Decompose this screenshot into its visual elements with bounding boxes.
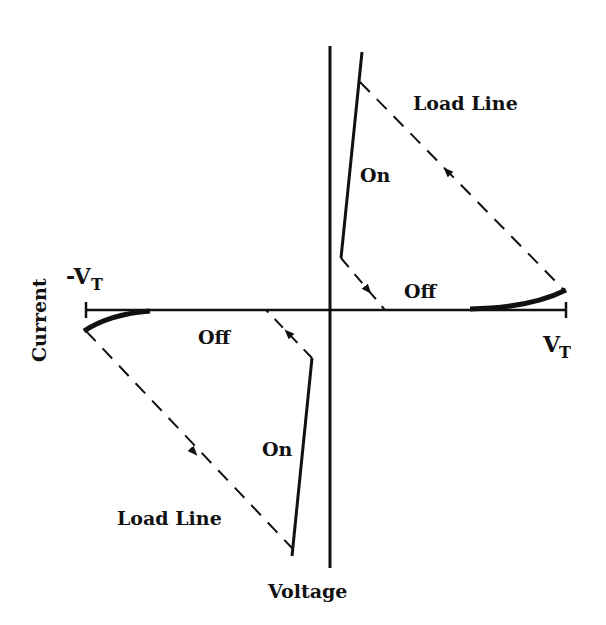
off-label-left: Off (198, 326, 232, 348)
iv-diagram: Load Line On Off Off On Load Line Voltag… (0, 0, 606, 625)
on-label-bottom: On (262, 438, 293, 460)
switch-off-transition-bottom (266, 310, 312, 358)
y-axis-title: Current (28, 278, 50, 362)
on-curve-top (341, 52, 362, 258)
on-label-top: On (360, 164, 391, 186)
vt-pos-label: V T (542, 331, 571, 362)
load-line-bottom-arrow (180, 437, 194, 452)
vt-pos-sub: T (559, 343, 571, 362)
vt-neg-sub: T (91, 275, 103, 294)
on-curve-bottom (292, 358, 312, 556)
x-axis-title: Voltage (267, 580, 347, 602)
vt-neg-label: -V T (66, 263, 103, 294)
load-line-label-bottom: Load Line (117, 507, 222, 529)
switch-off-transition-top (341, 258, 385, 310)
off-curve-left (84, 311, 150, 331)
off-label-right: Off (404, 280, 438, 302)
vt-neg-main: -V (66, 263, 92, 289)
load-line-label-top: Load Line (413, 92, 518, 114)
off-curve-right (470, 290, 566, 309)
